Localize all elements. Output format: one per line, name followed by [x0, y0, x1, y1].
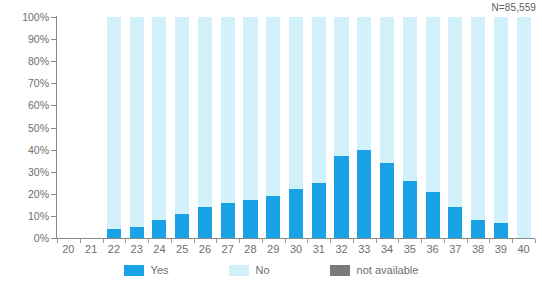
bar-segment-no[interactable]	[471, 17, 485, 238]
y-axis-tick	[51, 17, 56, 18]
x-axis-tick	[103, 239, 104, 243]
bar-stack[interactable]	[471, 17, 485, 238]
x-axis-tick-label: 21	[85, 243, 97, 255]
bar-segment-yes[interactable]	[107, 229, 121, 238]
y-axis-tick	[51, 150, 56, 151]
x-axis-tick-label: 22	[108, 243, 120, 255]
x-axis-tick-label: 29	[267, 243, 279, 255]
x-axis-tick-label: 38	[472, 243, 484, 255]
bar-slot[interactable]	[289, 17, 303, 238]
y-axis-tick	[51, 238, 56, 239]
bar-segment-no[interactable]	[494, 17, 508, 238]
bar-segment-yes[interactable]	[152, 220, 166, 238]
y-axis-tick	[51, 61, 56, 62]
x-axis-tick-label: 25	[176, 243, 188, 255]
x-axis-tick-label: 28	[244, 243, 256, 255]
bar-stack[interactable]	[403, 17, 417, 238]
bar-segment-no[interactable]	[107, 17, 121, 238]
bar-slot[interactable]	[471, 17, 485, 238]
bar-slot[interactable]	[426, 17, 440, 238]
y-axis-tick	[51, 216, 56, 217]
bar-segment-no[interactable]	[130, 17, 144, 238]
bar-stack[interactable]	[266, 17, 280, 238]
x-axis-tick	[398, 239, 399, 243]
bar-stack[interactable]	[380, 17, 394, 238]
bar-stack[interactable]	[448, 17, 462, 238]
x-axis-tick	[216, 239, 217, 243]
bar-segment-no[interactable]	[517, 17, 531, 238]
x-axis-tick	[285, 239, 286, 243]
legend-item-not_available[interactable]: not available	[330, 264, 419, 276]
bar-segment-no[interactable]	[448, 17, 462, 238]
x-axis-tick-label: 36	[426, 243, 438, 255]
x-axis-line	[56, 238, 535, 239]
bar-slot[interactable]	[357, 17, 371, 238]
bar-segment-yes[interactable]	[312, 183, 326, 238]
bar-segment-no[interactable]	[198, 17, 212, 238]
x-axis-tick	[353, 239, 354, 243]
bar-slot[interactable]	[175, 17, 189, 238]
bar-segment-yes[interactable]	[266, 196, 280, 238]
bar-stack[interactable]	[130, 17, 144, 238]
bar-stack[interactable]	[517, 17, 531, 238]
y-axis-tick-label: 60%	[3, 100, 49, 110]
bar-stack[interactable]	[334, 17, 348, 238]
bar-slot[interactable]	[517, 17, 531, 238]
bar-slot[interactable]	[221, 17, 235, 238]
bar-slot[interactable]	[107, 17, 121, 238]
y-axis-tick-label: 40%	[3, 145, 49, 155]
legend-item-no[interactable]: No	[229, 264, 270, 276]
bar-slot[interactable]	[266, 17, 280, 238]
sample-size-annotation: N=85,559	[492, 2, 536, 13]
bar-stack[interactable]	[198, 17, 212, 238]
bar-stack[interactable]	[312, 17, 326, 238]
y-axis-tick	[51, 172, 56, 173]
bar-stack[interactable]	[175, 17, 189, 238]
x-axis-tick-label: 26	[199, 243, 211, 255]
bar-slot[interactable]	[243, 17, 257, 238]
bar-slot[interactable]	[334, 17, 348, 238]
bar-segment-yes[interactable]	[403, 181, 417, 238]
legend-item-yes[interactable]: Yes	[124, 264, 169, 276]
bar-slot[interactable]	[494, 17, 508, 238]
bar-segment-yes[interactable]	[175, 214, 189, 238]
bar-slot[interactable]	[152, 17, 166, 238]
bar-slot[interactable]	[198, 17, 212, 238]
bar-stack[interactable]	[357, 17, 371, 238]
bar-segment-yes[interactable]	[357, 150, 371, 238]
bar-segment-yes[interactable]	[198, 207, 212, 238]
x-axis-tick-label: 27	[222, 243, 234, 255]
bar-slot[interactable]	[312, 17, 326, 238]
plot-area	[57, 17, 535, 238]
bar-stack[interactable]	[289, 17, 303, 238]
bar-segment-no[interactable]	[175, 17, 189, 238]
y-axis-tick-label: 70%	[3, 78, 49, 88]
bar-stack[interactable]	[107, 17, 121, 238]
bar-slot[interactable]	[130, 17, 144, 238]
bar-stack[interactable]	[221, 17, 235, 238]
bar-stack[interactable]	[152, 17, 166, 238]
bar-slot[interactable]	[448, 17, 462, 238]
x-axis-tick	[194, 239, 195, 243]
bar-segment-yes[interactable]	[243, 200, 257, 238]
chart-legend: YesNonot available	[0, 262, 542, 278]
y-axis-tick-label: 100%	[3, 12, 49, 22]
bar-segment-yes[interactable]	[289, 189, 303, 238]
bar-stack[interactable]	[243, 17, 257, 238]
bar-stack[interactable]	[494, 17, 508, 238]
bar-segment-yes[interactable]	[221, 203, 235, 238]
x-axis-tick	[239, 239, 240, 243]
bar-segment-yes[interactable]	[426, 192, 440, 238]
bar-segment-yes[interactable]	[471, 220, 485, 238]
bar-slot[interactable]	[380, 17, 394, 238]
bar-segment-yes[interactable]	[130, 227, 144, 238]
bar-slot[interactable]	[403, 17, 417, 238]
bar-segment-yes[interactable]	[334, 156, 348, 238]
bar-segment-yes[interactable]	[448, 207, 462, 238]
y-axis-tick	[51, 128, 56, 129]
x-axis-tick-label: 39	[495, 243, 507, 255]
bar-segment-yes[interactable]	[380, 163, 394, 238]
bar-segment-yes[interactable]	[494, 223, 508, 238]
bar-segment-no[interactable]	[152, 17, 166, 238]
bar-stack[interactable]	[426, 17, 440, 238]
